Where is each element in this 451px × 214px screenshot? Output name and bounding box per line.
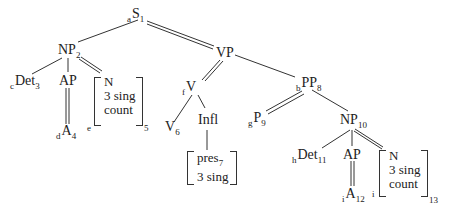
node-ap-1: AP	[59, 74, 77, 88]
node-det11: hDet11	[292, 148, 326, 167]
node-s1: aS1	[127, 7, 144, 26]
node-n5-index: 5	[144, 121, 149, 135]
left-bracket	[94, 77, 101, 126]
node-v6: V6	[165, 120, 180, 139]
node-pp8: bPP8	[296, 76, 322, 95]
node-p9: gP9	[248, 111, 266, 130]
right-bracket	[136, 77, 143, 126]
node-a12: iA12	[342, 187, 365, 206]
node-n5-prefix: e	[87, 121, 91, 135]
node-det3: cDet3	[10, 74, 40, 93]
node-n5-features: N 3 sing count	[104, 75, 135, 117]
node-a4: dA4	[56, 124, 76, 143]
edge-s-vp-b	[147, 24, 213, 49]
node-n13-prefix: i	[372, 187, 375, 201]
node-v: fV	[182, 80, 196, 99]
right-bracket	[230, 151, 237, 185]
node-infl: Infl	[198, 113, 218, 127]
edge-s-vp-a	[147, 21, 214, 46]
node-vp: VP	[216, 46, 234, 60]
node-n13-index: 13	[429, 193, 438, 207]
node-pres7-features: pres7 3 sing	[197, 151, 228, 184]
right-bracket	[421, 150, 428, 197]
node-n13-features: N 3 sing count	[389, 149, 420, 191]
left-bracket	[187, 151, 194, 185]
left-bracket	[379, 150, 386, 197]
node-np2: NP2	[58, 43, 80, 62]
node-ap-2: AP	[343, 148, 361, 162]
node-np10: NP10	[340, 113, 367, 132]
